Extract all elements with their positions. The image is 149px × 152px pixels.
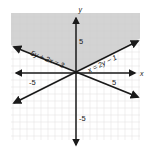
y-tick-label-5: 5 [79, 37, 83, 46]
y-axis-label: y [78, 6, 83, 14]
x-axis-label: x [139, 70, 144, 77]
graph-figure: x y -5 5 5 -5 5y + 2x = 3 x = 2y − 1 [0, 0, 149, 152]
coordinate-plane-svg: x y -5 5 5 -5 5y + 2x = 3 x = 2y − 1 [0, 0, 149, 152]
x-tick-label-5: 5 [112, 78, 116, 87]
x-tick-label-neg5: -5 [29, 78, 36, 87]
y-tick-label-neg5: -5 [79, 114, 86, 123]
